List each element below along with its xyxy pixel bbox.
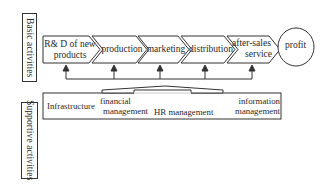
arrow-up-icon bbox=[202, 65, 208, 71]
activity-distribution-line1: distribution bbox=[189, 44, 233, 55]
arrow-up-icon bbox=[111, 65, 117, 71]
support-information: information management bbox=[230, 96, 280, 116]
activity-after-sales: after-sales service bbox=[232, 38, 278, 60]
activity-rnd-line1: R& D of new bbox=[44, 39, 96, 50]
activity-after-sales-line2: service bbox=[232, 49, 278, 60]
support-financial-line1: financial bbox=[98, 96, 148, 106]
support-infrastructure-line1: Infrastructure bbox=[47, 101, 95, 111]
activity-rnd: R& D of new products bbox=[44, 39, 96, 61]
support-hr-line1: HR management bbox=[154, 107, 213, 117]
arrow-up-icon bbox=[63, 65, 69, 71]
activity-production: production bbox=[100, 44, 144, 55]
arrow-up-icon bbox=[249, 65, 255, 71]
activity-production-line1: production bbox=[100, 44, 144, 55]
activity-after-sales-line1: after-sales bbox=[232, 38, 278, 49]
activity-marketing-line1: marketing bbox=[146, 44, 186, 55]
support-information-line2: management bbox=[230, 106, 280, 116]
support-infrastructure: Infrastructure bbox=[47, 101, 95, 111]
activity-marketing: marketing bbox=[146, 44, 186, 55]
support-wedge bbox=[102, 86, 223, 93]
support-financial: financial management bbox=[98, 96, 148, 116]
profit-label: profit bbox=[285, 40, 306, 50]
support-hr: HR management bbox=[154, 107, 213, 117]
activity-distribution: distribution bbox=[189, 44, 233, 55]
value-chain-graphic bbox=[0, 0, 332, 188]
activity-rnd-line2: products bbox=[44, 50, 96, 61]
arrow-up-icon bbox=[157, 65, 163, 71]
support-financial-line2: management bbox=[98, 106, 148, 116]
support-information-line1: information bbox=[230, 96, 280, 106]
